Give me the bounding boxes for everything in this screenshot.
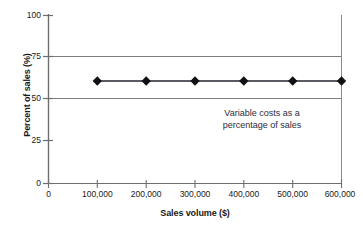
y-tick-label: 100 — [11, 11, 41, 20]
series-variable-costs — [93, 76, 347, 85]
plot-annotation-line-1: Variable costs as a — [188, 107, 336, 119]
x-axis-title: Sales volume ($) — [48, 208, 342, 218]
data-point-marker — [288, 76, 297, 85]
x-axis-tick-labels: 0 100,000 200,000 300,000 400,000 500,00… — [0, 190, 363, 202]
data-point-marker — [337, 76, 346, 85]
x-tick-label: 600,000 — [310, 190, 363, 199]
plot-annotation: Variable costs as a percentage of sales — [188, 107, 336, 131]
data-point-marker — [93, 76, 102, 85]
data-point-marker — [190, 76, 199, 85]
chart-container: 100 75 50 25 0 0 100,000 200,000 300,000… — [0, 0, 363, 226]
data-point-marker — [142, 76, 151, 85]
plot-annotation-line-2: percentage of sales — [188, 119, 336, 131]
data-point-marker — [239, 76, 248, 85]
y-tick-label: 0 — [11, 179, 41, 188]
y-axis-title: Percent of sales (%) — [22, 25, 32, 165]
